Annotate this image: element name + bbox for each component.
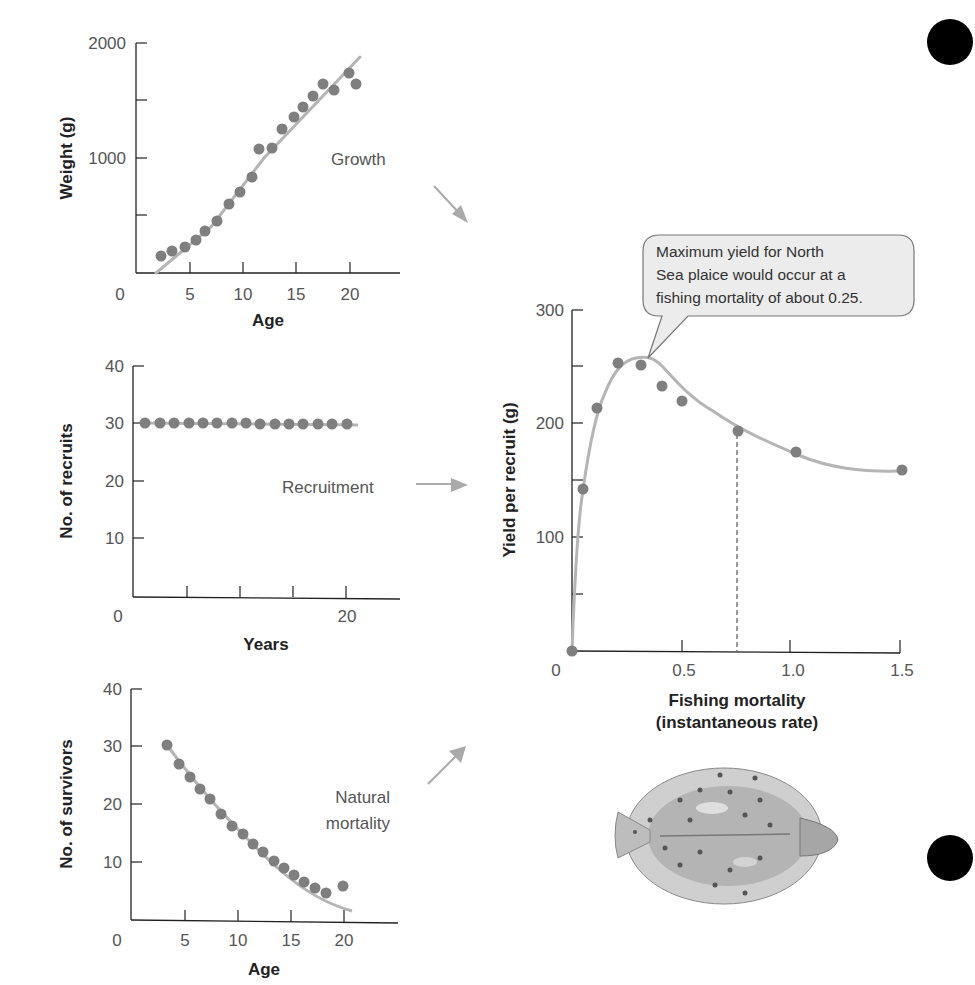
growth-x-tick-20: 20 — [341, 285, 360, 304]
yield-y-title: Yield per recruit (g) — [500, 402, 519, 557]
recruitment-y-tick-20: 20 — [105, 472, 124, 491]
recruitment-panel-label: Recruitment — [282, 478, 374, 497]
mortality-x-axis — [131, 920, 398, 923]
yield-curve — [572, 357, 900, 651]
growth-x-tick-10: 10 — [234, 285, 253, 304]
mortality-panel-label-line2: mortality — [326, 814, 391, 833]
growth-x-tick-0: 0 — [115, 285, 124, 304]
recruitment-x-title: Years — [243, 635, 288, 654]
yield-y-tick-100: 100 — [536, 528, 564, 547]
yield-y-tick-300: 300 — [536, 301, 564, 320]
mortality-x-title: Age — [248, 960, 280, 979]
mortality-x-tick-15: 15 — [282, 931, 301, 950]
yield-x-tick-1-0: 1.0 — [781, 661, 805, 680]
growth-y-tick-1000: 1000 — [88, 149, 126, 168]
mortality-y-title: No. of survivors — [57, 739, 76, 868]
yield-y-tick-200: 200 — [536, 414, 564, 433]
callout-line1: Maximum yield for North — [656, 243, 824, 260]
mortality-points — [162, 740, 349, 899]
growth-x-title: Age — [252, 311, 284, 330]
recruitment-x-tick-0: 0 — [113, 607, 122, 626]
mortality-y-tick-10: 10 — [103, 853, 122, 872]
mortality-y-tick-40: 40 — [103, 680, 122, 699]
mortality-y-tick-30: 30 — [103, 737, 122, 756]
mortality-y-tick-20: 20 — [103, 795, 122, 814]
recruitment-chart: 40 30 20 10 0 20 Years No. of recruits R… — [57, 357, 400, 654]
mortality-panel-label-line1: Natural — [335, 788, 390, 807]
recruitment-y-tick-10: 10 — [105, 529, 124, 548]
yield-x-tick-0-5: 0.5 — [672, 661, 696, 680]
yield-x-tick-1-5: 1.5 — [890, 661, 914, 680]
callout-bubble: Maximum yield for North Sea plaice would… — [643, 235, 914, 358]
growth-y-tick-2000: 2000 — [88, 34, 126, 53]
mortality-x-tick-0: 0 — [112, 931, 121, 950]
yield-chart: 300 200 100 0 0.5 1.0 1.5 Fishing mortal… — [500, 301, 914, 732]
figure-canvas: 2000 1000 0 5 10 15 20 Age Weight (g) Gr… — [0, 0, 975, 985]
recruitment-y-tick-30: 30 — [105, 414, 124, 433]
growth-chart: 2000 1000 0 5 10 15 20 Age Weight (g) Gr… — [57, 34, 400, 330]
plaice-fish-icon — [615, 768, 838, 904]
growth-x-tick-5: 5 — [185, 285, 194, 304]
mortality-x-tick-5: 5 — [180, 931, 189, 950]
bullet-dot-top-icon — [927, 19, 973, 65]
recruitment-y-tick-40: 40 — [105, 357, 124, 376]
arrow-growth-icon — [434, 186, 468, 223]
callout-line2: Sea plaice would occur at a — [656, 266, 846, 283]
bullet-dot-bottom-icon — [927, 835, 973, 881]
growth-x-tick-15: 15 — [287, 285, 306, 304]
mortality-x-tick-10: 10 — [229, 931, 248, 950]
mortality-chart: 40 30 20 10 0 5 10 15 20 Age No. of surv… — [57, 680, 398, 979]
yield-x-title-line1: Fishing mortality — [669, 691, 807, 710]
mortality-curve — [167, 745, 352, 911]
recruitment-x-tick-20: 20 — [338, 607, 357, 626]
mortality-x-tick-20: 20 — [335, 931, 354, 950]
growth-y-title: Weight (g) — [57, 117, 76, 200]
arrow-mortality-icon — [428, 746, 466, 784]
growth-panel-label: Growth — [331, 150, 386, 169]
yield-x-tick-0: 0 — [551, 661, 560, 680]
recruitment-points — [140, 418, 353, 430]
yield-x-title-line2: (instantaneous rate) — [656, 713, 818, 732]
yield-x-axis — [572, 651, 900, 653]
recruitment-x-axis — [133, 597, 400, 599]
recruitment-y-title: No. of recruits — [57, 423, 76, 538]
arrow-recruitment-icon — [416, 478, 468, 492]
callout-line3: fishing mortality of about 0.25. — [656, 289, 863, 306]
